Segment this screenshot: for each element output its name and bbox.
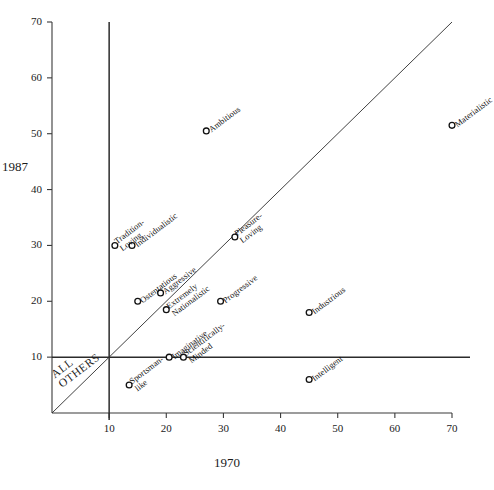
y-tick-label-60: 60	[20, 71, 42, 83]
y-tick-label-70: 70	[20, 15, 42, 27]
x-tick-label-20: 20	[154, 422, 178, 434]
y-tick-label-30: 30	[20, 238, 42, 250]
y-tick-label-20: 20	[20, 294, 42, 306]
y-tick-label-50: 50	[20, 127, 42, 139]
y-axis-title: 1987	[2, 159, 28, 175]
x-tick-label-30: 30	[211, 422, 235, 434]
x-tick-label-50: 50	[326, 422, 350, 434]
x-axis-title: 1970	[214, 455, 240, 471]
y-tick-label-10: 10	[20, 350, 42, 362]
x-tick-label-10: 10	[97, 422, 121, 434]
x-tick-label-40: 40	[269, 422, 293, 434]
y-tick-label-40: 40	[20, 183, 42, 195]
x-tick-label-70: 70	[440, 422, 464, 434]
x-tick-label-60: 60	[383, 422, 407, 434]
